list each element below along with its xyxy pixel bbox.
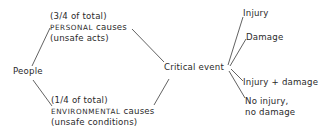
accident-causation-diagram: People (3/4 of total) PERSONAL causes (u… — [0, 0, 328, 134]
edge-personal-event — [132, 29, 164, 62]
outcome-damage-label: Damage — [246, 32, 283, 42]
personal-detail: (unsafe acts) — [50, 33, 127, 44]
outcome-injury-label: Injury — [243, 8, 269, 18]
environmental-detail: (unsafe conditions) — [51, 117, 154, 128]
edge-people-environmental — [33, 80, 52, 106]
outcome-injury: Injury — [243, 8, 269, 19]
personal-title: PERSONAL causes — [50, 22, 127, 33]
environmental-name-rest: causes — [121, 106, 155, 116]
node-people: People — [13, 66, 43, 77]
personal-name-caps: PERSONAL — [50, 23, 93, 32]
outcome-no-injury-no-damage: No injury, no damage — [245, 96, 295, 118]
edge-people-personal — [32, 28, 50, 66]
environmental-share: (1/4 of total) — [51, 95, 154, 106]
edge-event-damage — [230, 39, 246, 66]
node-critical-event: Critical event — [164, 62, 224, 73]
edge-event-injury — [228, 17, 243, 65]
personal-share: (3/4 of total) — [50, 11, 127, 22]
personal-name-rest: causes — [93, 22, 127, 32]
node-environmental-causes: (1/4 of total) ENVIRONMENTAL causes (uns… — [51, 95, 154, 128]
outcome-damage: Damage — [246, 32, 283, 43]
node-personal-causes: (3/4 of total) PERSONAL causes (unsafe a… — [50, 11, 127, 44]
outcome-injury-damage: Injury + damage — [243, 77, 318, 88]
edge-environmental-event — [154, 79, 169, 105]
environmental-name-caps: ENVIRONMENTAL — [51, 107, 121, 116]
outcome-injury-damage-label: Injury + damage — [243, 77, 318, 87]
critical-event-label: Critical event — [164, 62, 224, 72]
outcome-no-injury-line2: no damage — [245, 107, 295, 118]
environmental-title: ENVIRONMENTAL causes — [51, 106, 154, 117]
outcome-no-injury-line1: No injury, — [245, 96, 295, 107]
edge-event-injury-damage — [231, 69, 243, 81]
people-label: People — [13, 66, 43, 76]
